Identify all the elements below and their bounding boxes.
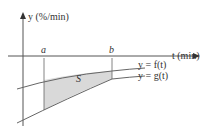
y-axis-label: y (%/min) bbox=[28, 11, 69, 23]
point-b-label: b bbox=[109, 44, 114, 55]
point-a-label: a bbox=[41, 44, 46, 55]
area-between-curves-diagram: y (%/min) t (min) a b S y = f(t) y = g(t… bbox=[0, 0, 217, 130]
t-axis-label: t (min) bbox=[172, 50, 200, 62]
curve-g-label: y = g(t) bbox=[138, 70, 168, 82]
region-s-label: S bbox=[76, 73, 81, 84]
y-axis-arrow-icon bbox=[20, 12, 26, 19]
